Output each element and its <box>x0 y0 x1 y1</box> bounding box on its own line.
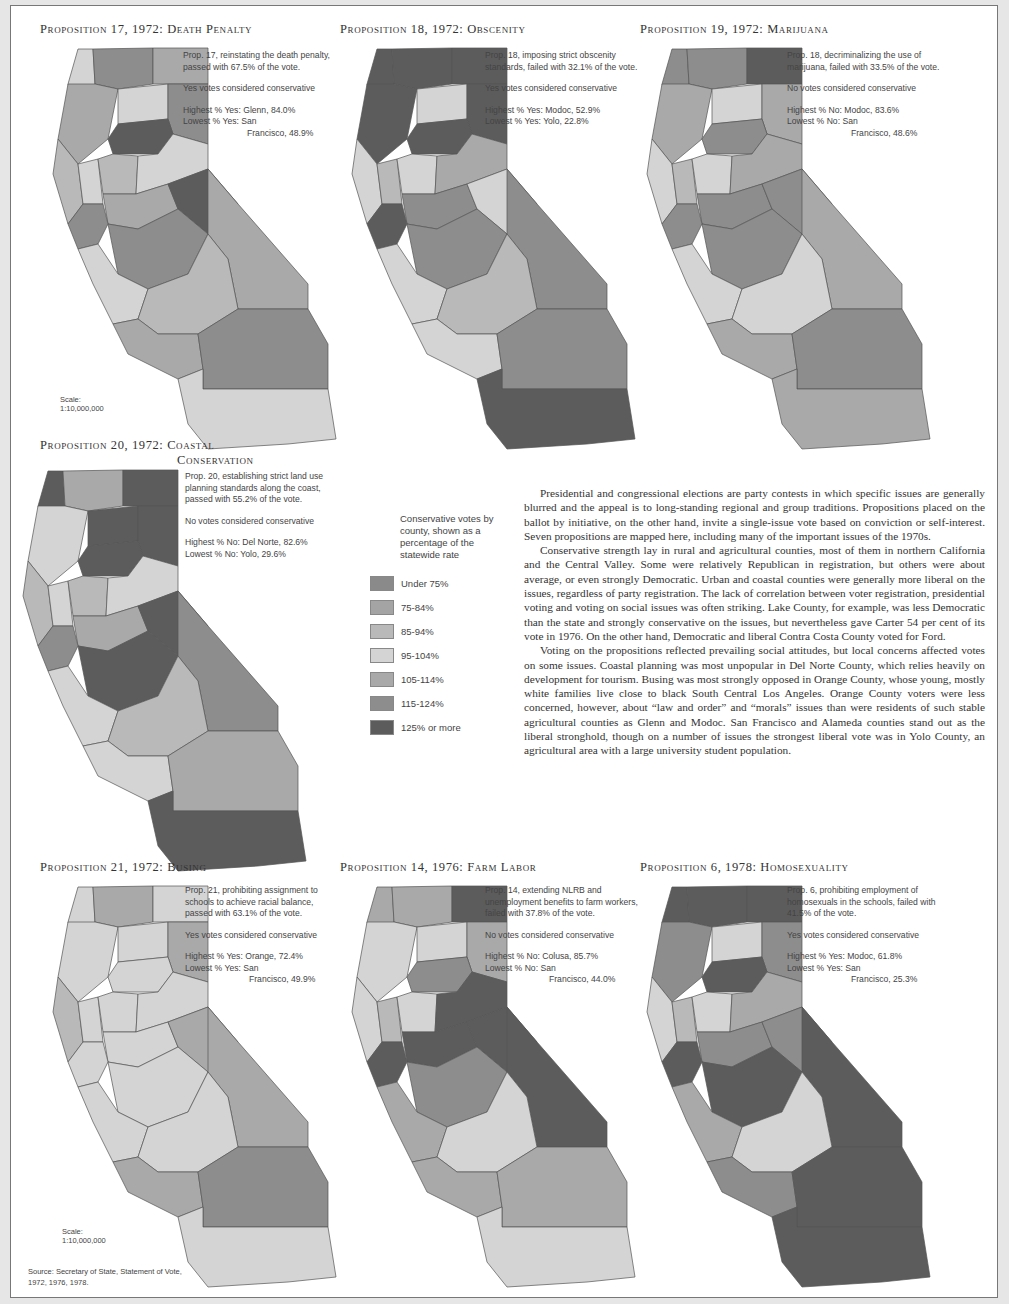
panel-description: Prop. 21, prohibiting assignment to scho… <box>185 885 335 986</box>
legend-swatch <box>370 672 394 687</box>
panel-title: Proposition 17, 1972: Death Penalty <box>40 22 252 37</box>
legend-item: 125% or more <box>370 715 500 739</box>
legend-swatch <box>370 600 394 615</box>
legend-swatch <box>370 624 394 639</box>
source-citation: Source: Secretary of State, Statement of… <box>28 1266 182 1288</box>
legend-item: 115-124% <box>370 691 500 715</box>
essay-paragraph: Conservative strength lay in rural and a… <box>524 543 985 643</box>
panel-description: Prop. 17, reinstating the death penalty,… <box>183 50 343 139</box>
essay-paragraph: Presidential and congressional elections… <box>524 486 985 543</box>
essay-paragraph: Voting on the propositions reflected pre… <box>524 643 985 757</box>
legend-item: 85-94% <box>370 619 500 643</box>
panel-description: Prop. 18, imposing strict obscenity stan… <box>485 50 645 128</box>
panel-title: Proposition 21, 1972: Busing <box>40 860 207 875</box>
panel-title: Proposition 14, 1976: Farm Labor <box>340 860 536 875</box>
panel-description: Prop. 18, decriminalizing the use of mar… <box>787 50 947 139</box>
legend-swatch <box>370 576 394 591</box>
legend-heading: Conservative votes by county, shown as a… <box>370 513 500 561</box>
panel-title: Proposition 6, 1978: Homosexuality <box>640 860 849 875</box>
essay-text: Presidential and congressional elections… <box>524 486 985 758</box>
legend-swatch <box>370 696 394 711</box>
panel-description: Prop. 6, prohibiting employment of homos… <box>787 885 947 986</box>
panel-description: Prop. 20, establishing strict land use p… <box>185 471 335 560</box>
panel-title: Proposition 18, 1972: Obscenity <box>340 22 526 37</box>
legend-item: 75-84% <box>370 595 500 619</box>
panel-title: Proposition 19, 1972: Marijuana <box>640 22 829 37</box>
panel-title: Proposition 20, 1972: Coastal Conservati… <box>40 438 254 468</box>
legend-swatch <box>370 648 394 663</box>
scale-label: Scale: 1:10,000,000 <box>62 1227 106 1245</box>
panel-description: Prop. 14, extending NLRB and unemploymen… <box>485 885 645 986</box>
legend-item: 105-114% <box>370 667 500 691</box>
scale-label: Scale: 1:10,000,000 <box>60 395 104 413</box>
legend-item: Under 75% <box>370 571 500 595</box>
map-legend: Conservative votes by county, shown as a… <box>370 513 500 739</box>
legend-swatch <box>370 720 394 735</box>
legend-item: 95-104% <box>370 643 500 667</box>
